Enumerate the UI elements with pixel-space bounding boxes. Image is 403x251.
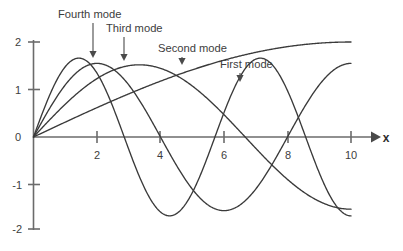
y-tick-label-m2: -2 (12, 223, 22, 235)
chart-svg: 2 1 0 -1 -2 2 4 6 8 10 x (0, 0, 403, 251)
x-tick-label-4: 4 (157, 149, 163, 161)
annotation-first-mode: First mode (220, 58, 273, 82)
annotation-label-fourth-mode: Fourth mode (58, 8, 121, 20)
y-tick-labels-group: 2 1 0 -1 -2 (12, 36, 22, 235)
annotation-label-third-mode: Third mode (106, 22, 163, 34)
y-tick-label-1: 1 (15, 84, 21, 96)
curves-group (34, 42, 352, 216)
x-tick-label-8: 8 (285, 149, 291, 161)
annotation-arrowhead-third-mode (120, 54, 127, 61)
annotation-arrowhead-second-mode (178, 58, 185, 65)
annotation-arrowhead-fourth-mode (89, 51, 96, 58)
annotation-third-mode: Third mode (106, 22, 163, 61)
annotation-label-first-mode: First mode (220, 58, 273, 70)
y-tick-label-m1: -1 (12, 179, 22, 191)
x-tick-label-2: 2 (94, 149, 100, 161)
annotation-label-second-mode: Second mode (158, 42, 227, 54)
x-tick-label-6: 6 (221, 149, 227, 161)
x-axis-label: x (383, 131, 390, 145)
x-axis-arrowhead (371, 132, 381, 143)
x-tick-labels-group: 2 4 6 8 10 (94, 149, 357, 161)
y-tick-label-2: 2 (15, 36, 21, 48)
axes-group (34, 40, 382, 230)
y-tick-label-0: 0 (15, 131, 21, 143)
x-tick-label-10: 10 (345, 149, 357, 161)
mode-shapes-chart: 2 1 0 -1 -2 2 4 6 8 10 x (0, 0, 403, 251)
